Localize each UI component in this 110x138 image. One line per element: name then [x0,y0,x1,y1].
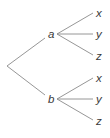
leaf-a-z-label: z [95,50,102,62]
node-b-label: b [48,93,55,105]
tree-diagram: a b x y z x y z [0,0,110,138]
edge-root-a [7,38,45,66]
edge-b-z [57,99,93,120]
leaf-b-x-label: x [95,72,103,84]
leaf-a-y-label: y [95,28,103,40]
leaf-b-y-label: y [95,93,103,105]
edge-root-b [7,66,45,95]
leaf-a-x-label: x [95,7,103,19]
edge-a-x [57,13,93,34]
edge-b-x [57,78,93,99]
edge-a-z [57,34,93,55]
node-a-label: a [48,28,54,40]
leaf-b-z-label: z [95,115,102,127]
